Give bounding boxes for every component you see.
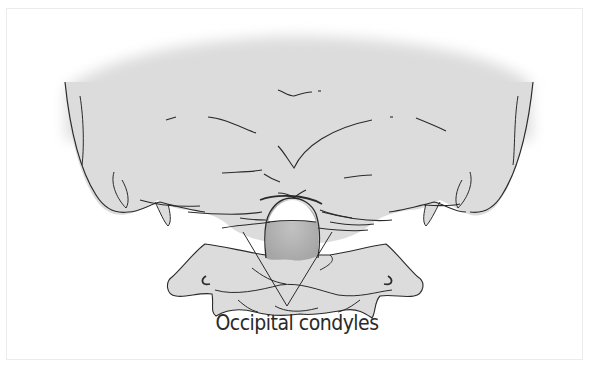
occipital-condyles-label: Occipital condyles — [0, 311, 594, 335]
